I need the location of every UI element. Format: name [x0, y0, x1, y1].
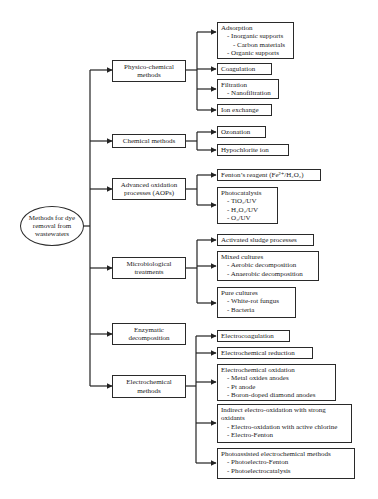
- method-item: - Carbon materials: [221, 41, 290, 49]
- method-item: - Inorganic supports: [221, 32, 290, 40]
- category-physico-chemical: Physico-chemical methods: [112, 60, 186, 82]
- category-label: Advanced oxidation: [121, 181, 178, 189]
- method-electrocoagulation: Electrocoagulation: [217, 330, 290, 342]
- method-item: - Aerobic decomposition: [221, 261, 315, 269]
- method-item: - White-rot fungus: [221, 297, 292, 305]
- method-pure-cultures: Pure cultures - White-rot fungus - Bacte…: [217, 287, 296, 318]
- method-fenton: Fenton’s reagent (Fe²⁺/H₂O₂): [217, 169, 321, 181]
- method-title: Electrochemical oxidation: [221, 366, 332, 374]
- method-title: oxidants: [221, 414, 348, 422]
- method-filtration: Filtration - Nanofiltration: [217, 79, 279, 99]
- category-label: methods: [137, 71, 161, 79]
- method-title: Electrocoagulation: [221, 332, 286, 340]
- method-item: - Pt anode: [221, 383, 332, 391]
- method-item: - Photoelectro-Fenton: [221, 458, 351, 466]
- method-adsorption: Adsorption - Inorganic supports - Carbon…: [217, 22, 294, 59]
- method-item: - H₂O₂/UV: [221, 206, 274, 214]
- method-title: Indirect electro-oxidation with strong: [221, 406, 348, 414]
- method-mixed-cultures: Mixed cultures - Aerobic decomposition -…: [217, 251, 319, 281]
- method-title: Photocatalysis: [221, 189, 274, 197]
- category-aop: Advanced oxidation processes (AOPs): [112, 178, 186, 200]
- method-item: - O₃/UV: [221, 214, 274, 222]
- method-title: Mixed cultures: [221, 253, 315, 261]
- method-title: Pure cultures: [221, 289, 292, 297]
- category-electrochemical: Electrochemical methods: [112, 375, 186, 398]
- method-title: Ion exchange: [221, 106, 268, 114]
- method-item: - Photoelectrocatalysis: [221, 467, 351, 475]
- method-title: Hypochlorite ion: [221, 146, 285, 154]
- method-title: Adsorption: [221, 24, 290, 32]
- root-line: Methods for dye: [29, 214, 75, 222]
- method-photocatalysis: Photocatalysis - TiO₂/UV - H₂O₂/UV - O₃/…: [217, 187, 278, 224]
- category-label: Chemical methods: [123, 137, 175, 145]
- method-item: - Electro-Fenton: [221, 431, 348, 439]
- method-title: Coagulation: [221, 65, 268, 73]
- method-electrochemical-reduction: Electrochemical reduction: [217, 347, 313, 359]
- root-node: Methods for dye removal from wastewaters: [20, 206, 84, 246]
- category-label: methods: [137, 387, 161, 395]
- method-item: - Electro-oxidation with active chlorine: [221, 423, 348, 431]
- method-title: Activated sludge processes: [221, 236, 310, 244]
- method-title: Photoassisted electrochemical methods: [221, 450, 351, 458]
- method-ion-exchange: Ion exchange: [217, 104, 272, 116]
- method-coagulation: Coagulation: [217, 63, 272, 75]
- root-line: wastewaters: [35, 230, 69, 238]
- method-item: - Organic supports: [221, 49, 290, 57]
- method-indirect-electro-oxidation: Indirect electro-oxidation with strong o…: [217, 404, 352, 443]
- method-item: - Metal oxides anodes: [221, 374, 332, 382]
- category-chemical: Chemical methods: [112, 134, 186, 148]
- method-hypochlorite: Hypochlorite ion: [217, 144, 289, 156]
- method-electrochemical-oxidation: Electrochemical oxidation - Metal oxides…: [217, 364, 336, 401]
- method-item: - Nanofiltration: [221, 89, 275, 97]
- root-line: removal from: [33, 222, 71, 230]
- method-item: - Bacteria: [221, 306, 292, 314]
- method-photoassisted: Photoassisted electrochemical methods - …: [217, 448, 355, 479]
- category-enzymatic: Enzymatic decomposition: [112, 323, 186, 345]
- category-label: decomposition: [128, 334, 169, 342]
- method-activated-sludge: Activated sludge processes: [217, 234, 314, 246]
- category-label: processes (AOPs): [124, 189, 174, 197]
- method-ozonation: Ozonation: [217, 126, 266, 138]
- category-label: treatments: [134, 268, 163, 276]
- method-item: - TiO₂/UV: [221, 197, 274, 205]
- category-microbiological: Microbiological treatments: [112, 257, 186, 279]
- category-label: Electrochemical: [126, 378, 171, 386]
- method-title: Filtration: [221, 81, 275, 89]
- method-title: Fenton’s reagent (Fe²⁺/H₂O₂): [221, 171, 317, 179]
- method-item: - Boron-doped diamond anodes: [221, 391, 332, 399]
- method-item: - Anaerobic decomposition: [221, 270, 315, 278]
- category-label: Physico-chemical: [124, 63, 174, 71]
- category-label: Microbiological: [126, 260, 171, 268]
- method-title: Electrochemical reduction: [221, 349, 309, 357]
- dye-removal-methods-diagram: Methods for dye removal from wastewaters…: [0, 0, 378, 499]
- method-title: Ozonation: [221, 128, 262, 136]
- category-label: Enzymatic: [134, 326, 164, 334]
